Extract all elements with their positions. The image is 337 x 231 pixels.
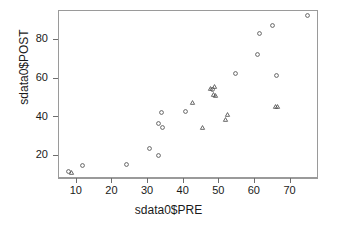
x-tick: [183, 178, 184, 183]
x-tick-label: 70: [275, 184, 305, 197]
data-point-circle: [183, 109, 188, 114]
x-tick: [111, 178, 112, 183]
data-point-circle: [160, 125, 165, 130]
y-tick: [53, 155, 58, 156]
data-point-triangle: [200, 125, 205, 130]
data-point-triangle: [223, 117, 228, 122]
data-point-circle: [80, 163, 85, 168]
y-axis-line: [58, 10, 59, 178]
data-point-circle: [274, 73, 279, 78]
data-point-circle: [305, 13, 310, 18]
data-point-triangle: [213, 93, 218, 98]
y-axis-title: sdata0$POST: [17, 0, 31, 147]
data-point-circle: [147, 146, 152, 151]
x-tick: [290, 178, 291, 183]
x-axis-line: [58, 178, 318, 179]
x-tick-label: 30: [132, 184, 162, 197]
x-tick-label: 40: [168, 184, 198, 197]
x-axis-title: sdata0$PRE: [0, 203, 337, 217]
data-point-triangle: [212, 84, 217, 89]
data-point-circle: [124, 162, 129, 167]
x-tick-label: 20: [96, 184, 126, 197]
data-point-triangle: [190, 100, 195, 105]
x-tick: [76, 178, 77, 183]
x-tick-label: 60: [239, 184, 269, 197]
x-tick: [218, 178, 219, 183]
x-tick-label: 50: [203, 184, 233, 197]
y-tick: [53, 78, 58, 79]
data-point-triangle: [275, 104, 280, 109]
data-points-layer: [59, 11, 317, 177]
y-tick-label: 20: [0, 148, 48, 161]
scatter-chart: 10203040506070 20406080 sdata0$PRE sdata…: [0, 0, 337, 231]
x-tick-label: 10: [61, 184, 91, 197]
y-tick: [53, 39, 58, 40]
plot-frame: [58, 10, 318, 178]
data-point-circle: [257, 31, 262, 36]
x-tick: [254, 178, 255, 183]
data-point-triangle: [225, 112, 230, 117]
data-point-circle: [255, 52, 260, 57]
data-point-circle: [270, 23, 275, 28]
data-point-circle: [233, 71, 238, 76]
y-tick: [53, 116, 58, 117]
x-tick: [147, 178, 148, 183]
data-point-circle: [159, 110, 164, 115]
data-point-triangle: [69, 170, 74, 175]
data-point-circle: [156, 153, 161, 158]
